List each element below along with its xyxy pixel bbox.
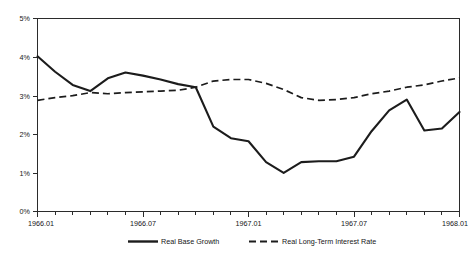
y-tick-label: 3% — [20, 92, 31, 101]
y-tick-label: 2% — [20, 130, 31, 139]
line-chart: 5% 4% 3% 2% 1% 0% — [0, 0, 475, 259]
y-tick-label: 4% — [20, 53, 31, 62]
legend-label-real-base-growth: Real Base Growth — [161, 237, 219, 246]
legend-label-real-long-term-interest-rate: Real Long-Term Interest Rate — [282, 237, 376, 246]
series-real-base-growth — [38, 56, 460, 173]
x-tick-label: 1966.07 — [130, 219, 156, 228]
chart-legend: Real Base Growth Real Long-Term Interest… — [128, 237, 376, 246]
x-tick-label: 1967.01 — [236, 219, 262, 228]
series-real-long-term-interest-rate — [38, 78, 460, 100]
x-axis-labels: 1966.01 1966.07 1967.01 1967.07 1968.01 — [28, 219, 468, 228]
y-axis-labels: 5% 4% 3% 2% 1% 0% — [20, 14, 31, 216]
y-tick-label: 5% — [20, 14, 31, 23]
chart-container: 5% 4% 3% 2% 1% 0% — [0, 0, 475, 259]
plot-area-border — [38, 19, 460, 212]
y-tick-label: 1% — [20, 169, 31, 178]
x-tick-label: 1967.07 — [341, 219, 367, 228]
x-axis-ticks — [38, 212, 460, 218]
x-tick-label: 1966.01 — [28, 219, 54, 228]
y-axis-ticks — [33, 19, 38, 212]
x-tick-label: 1968.01 — [442, 219, 468, 228]
y-tick-label: 0% — [20, 207, 31, 216]
